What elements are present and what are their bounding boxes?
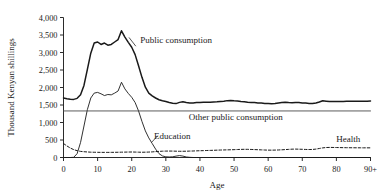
health-label: Health [336,134,360,144]
x-axis-tick-label: 90+ [364,165,377,174]
x-axis-tick-label: 30 [162,165,170,174]
x-axis-tick-label: 10 [93,165,101,174]
x-axis-tick-label: 50 [230,165,238,174]
series-line [64,31,371,104]
x-axis-tick-label: 60 [264,165,272,174]
x-axis-tick-label: 80 [332,165,340,174]
series-line [64,144,371,153]
y-axis-tick-label: 1,500 [39,101,58,110]
other-public-consumption-label: Other public consumption [189,112,283,122]
y-axis-tick-label: 3,000 [39,49,58,58]
x-axis-tick-label: 40 [196,165,204,174]
public-consumption-label: Public consumption [140,35,212,45]
y-axis-title: Thousand Kenyan shillings [6,38,16,137]
y-axis-tick-label: 1,000 [39,119,58,128]
chart-figure: 05001,0001,5002,0002,5003,0003,5004,0000… [0,0,378,193]
y-axis-tick-label: 2,000 [39,84,58,93]
y-axis-tick-label: 500 [45,136,57,145]
x-axis-tick-label: 0 [61,165,65,174]
education-label: Education [154,131,191,141]
y-axis-tick-label: 4,000 [39,14,58,23]
y-axis-tick-label: 2,500 [39,66,58,75]
chart-svg: 05001,0001,5002,0002,5003,0003,5004,0000… [0,0,378,193]
x-axis-tick-label: 20 [128,165,136,174]
y-axis-tick-label: 0 [53,154,57,163]
x-axis-title: Age [210,180,225,190]
x-axis-tick-label: 70 [298,165,306,174]
y-axis-tick-label: 3,500 [39,31,58,40]
